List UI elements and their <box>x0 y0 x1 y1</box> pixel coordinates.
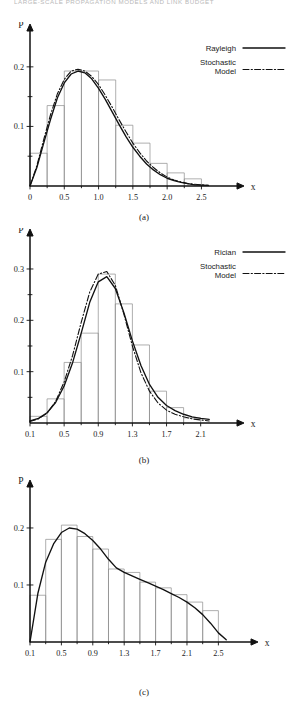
chart-b-canvas: 0.10.50.91.31.72.10.10.20.3PxRicianStoch… <box>0 228 288 476</box>
x-tick-label: 0.5 <box>59 430 69 439</box>
histogram-bar <box>171 595 187 642</box>
running-head: LARGE-SCALE PROPAGATION MODELS AND LINK … <box>14 0 282 6</box>
histogram-bar <box>140 582 156 642</box>
histogram-bar <box>81 333 98 423</box>
x-tick-label: 1.3 <box>119 649 129 658</box>
x-tick-label: 0.9 <box>93 430 103 439</box>
legend-label: Rician <box>214 248 236 257</box>
histogram-bar <box>46 539 62 642</box>
y-axis-label: P <box>18 22 23 30</box>
figure-c: 0.10.50.91.31.72.12.50.10.2Px (c) <box>0 476 288 708</box>
x-tick-label: 2.1 <box>196 430 206 439</box>
y-tick-label: 0.1 <box>14 122 24 131</box>
figure-a: 00.51.01.52.02.50.10.2PxRayleighStochast… <box>0 22 288 228</box>
x-tick-label: 0.5 <box>59 193 69 202</box>
y-tick-label: 0.1 <box>14 368 24 377</box>
chart-a-canvas: 00.51.01.52.02.50.10.2PxRayleighStochast… <box>0 22 288 228</box>
legend-label: Model <box>215 271 237 280</box>
histogram-bar <box>98 274 115 423</box>
series-curve-stochastic-model <box>30 272 209 422</box>
histogram-bar <box>61 525 77 642</box>
y-tick-label: 0.2 <box>14 316 24 325</box>
chart-c-canvas: 0.10.50.91.31.72.12.50.10.2Px <box>0 476 288 708</box>
x-tick-label: 2.0 <box>162 193 172 202</box>
y-axis-label: P <box>18 228 23 235</box>
x-tick-label: 1.3 <box>127 430 137 439</box>
histogram-bar <box>99 80 116 186</box>
x-tick-label: 2.5 <box>213 649 223 658</box>
histogram-bar <box>108 569 124 642</box>
y-axis-arrow <box>27 229 33 236</box>
x-tick-label: 0.1 <box>25 430 35 439</box>
histogram-bar <box>77 537 93 642</box>
y-axis-label: P <box>18 476 23 486</box>
figure-b: 0.10.50.91.31.72.10.10.20.3PxRicianStoch… <box>0 228 288 476</box>
y-tick-label: 0.1 <box>14 581 24 590</box>
x-tick-label: 1.7 <box>150 649 160 658</box>
legend-label: Stochastic <box>200 262 236 271</box>
x-tick-label: 2.1 <box>182 649 192 658</box>
y-axis-arrow <box>27 24 33 31</box>
histogram-bar <box>93 549 109 642</box>
y-tick-label: 0.2 <box>14 524 24 533</box>
x-axis-label: x <box>265 638 270 648</box>
histogram-bar <box>64 362 81 423</box>
histogram-bar <box>115 304 132 423</box>
series-curve-distribution <box>30 528 226 642</box>
x-tick-label: 1.5 <box>128 193 138 202</box>
figure-page: LARGE-SCALE PROPAGATION MODELS AND LINK … <box>0 0 288 708</box>
legend-label: Model <box>215 67 237 76</box>
histogram-bar <box>64 71 81 186</box>
legend-label: Rayleigh <box>206 44 236 53</box>
x-tick-label: 0.5 <box>56 649 66 658</box>
histogram-bar <box>124 572 140 642</box>
x-axis-arrow <box>237 420 244 426</box>
legend-label: Stochastic <box>200 58 236 67</box>
y-axis-arrow <box>27 480 33 487</box>
x-tick-label: 0.1 <box>25 649 35 658</box>
y-tick-label: 0.3 <box>14 265 24 274</box>
histogram-bar <box>81 71 98 186</box>
x-axis-label: x <box>251 419 256 429</box>
histogram-bar <box>203 611 219 642</box>
histogram-bar <box>149 391 166 423</box>
x-tick-label: 1.0 <box>93 193 103 202</box>
x-tick-label: 0 <box>28 193 32 202</box>
figure-b-caption: (b) <box>0 455 288 465</box>
x-tick-label: 0.9 <box>88 649 98 658</box>
figure-a-caption: (a) <box>0 212 288 222</box>
figure-c-caption: (c) <box>0 687 288 697</box>
x-axis-label: x <box>251 182 256 192</box>
histogram-bar <box>30 595 46 642</box>
series-curve-stochastic-model <box>30 69 208 186</box>
y-tick-label: 0.2 <box>14 63 24 72</box>
x-tick-label: 1.7 <box>161 430 171 439</box>
series-curve-rayleigh <box>30 71 208 186</box>
x-axis-arrow <box>237 183 244 189</box>
histogram-bar <box>156 588 172 642</box>
x-axis-arrow <box>251 639 258 645</box>
histogram-bar <box>132 345 149 423</box>
x-tick-label: 2.5 <box>196 193 206 202</box>
